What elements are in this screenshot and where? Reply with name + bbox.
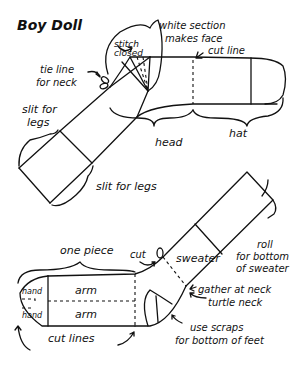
feet-inner-line xyxy=(156,296,158,322)
label-hat: hat xyxy=(229,127,248,140)
label-sweater: sweater xyxy=(176,252,221,265)
label-legs: legs xyxy=(27,116,50,129)
label-of-sweater: of sweater xyxy=(236,263,290,274)
label-turtle-neck: turtle neck xyxy=(208,297,263,308)
label-use-scraps: use scraps xyxy=(190,322,243,333)
label-closed: closed xyxy=(114,48,143,58)
top-pattern xyxy=(19,20,286,206)
sweater-divider xyxy=(195,224,222,254)
label-slit-for-legs: slit for legs xyxy=(96,180,157,193)
label-white-section: white section xyxy=(159,20,226,31)
label-makes-face: makes face xyxy=(165,33,223,44)
label-gather-at-neck: gather at neck xyxy=(198,284,272,295)
label-slit-for: slit for xyxy=(22,103,58,116)
label-hand-top: hand xyxy=(22,287,43,296)
hat-brace xyxy=(193,98,283,126)
roll-curl xyxy=(268,200,276,218)
label-cut-lines: cut lines xyxy=(48,332,95,345)
head-upper-edge xyxy=(150,57,286,104)
arrow-tie xyxy=(88,72,100,78)
head-lower-edge xyxy=(137,104,277,117)
neck-knot-icon xyxy=(157,248,163,258)
slit-brace-right xyxy=(52,166,93,206)
label-arm-bottom: arm xyxy=(75,308,97,321)
boy-doll-diagram: Boy Doll xyxy=(0,0,295,368)
label-for-neck: for neck xyxy=(36,77,78,88)
legs-end-line xyxy=(19,168,50,203)
arrow-cut-lines-left xyxy=(15,326,30,350)
arrow-scraps xyxy=(172,315,182,323)
one-piece-brace xyxy=(18,262,135,283)
diagram-title: Boy Doll xyxy=(17,17,82,33)
label-cut-line: cut line xyxy=(208,45,245,56)
label-roll: roll xyxy=(257,239,273,250)
slit-divider xyxy=(60,131,92,163)
head-brace xyxy=(110,108,193,126)
label-for-bottom: for bottom xyxy=(236,251,289,262)
label-head: head xyxy=(155,136,183,149)
arrow-gather xyxy=(190,285,196,291)
label-for-bottom-of-feet: for bottom of feet xyxy=(175,335,265,346)
label-hand-bottom: hand xyxy=(22,311,43,320)
label-arm-top: arm xyxy=(75,284,97,297)
label-one-piece: one piece xyxy=(60,244,114,257)
slit-brace-left xyxy=(19,130,58,166)
label-cut: cut xyxy=(130,249,147,260)
label-tie-line: tie line xyxy=(40,64,74,75)
arrow-cut-lines-right xyxy=(118,332,134,345)
feet-bottom xyxy=(135,286,186,326)
